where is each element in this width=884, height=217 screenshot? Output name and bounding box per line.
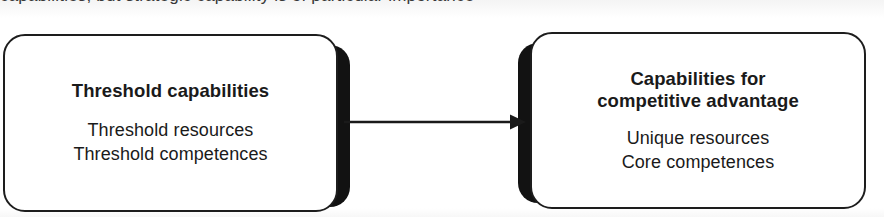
advantage-title-line-2: competitive advantage (597, 90, 799, 112)
threshold-box-body: Threshold resources Threshold competence… (73, 118, 267, 166)
threshold-body-line-2: Threshold competences (73, 142, 267, 166)
arrow-right-icon (344, 108, 526, 136)
figure-root: capabilities, but strategic capability i… (0, 0, 884, 217)
clipped-caption-line: capabilities, but strategic capability i… (0, 0, 884, 8)
competitive-advantage-box: Capabilities for competitive advantage U… (530, 32, 866, 209)
advantage-box-title: Capabilities for competitive advantage (597, 68, 799, 112)
threshold-body-line-1: Threshold resources (73, 118, 267, 142)
advantage-box-body: Unique resources Core competences (622, 126, 775, 174)
advantage-body-line-2: Core competences (622, 150, 775, 174)
advantage-title-line-1: Capabilities for (597, 68, 799, 90)
threshold-capabilities-box: Threshold capabilities Threshold resourc… (3, 34, 338, 212)
threshold-box-title: Threshold capabilities (72, 80, 270, 102)
advantage-body-line-1: Unique resources (622, 126, 775, 150)
